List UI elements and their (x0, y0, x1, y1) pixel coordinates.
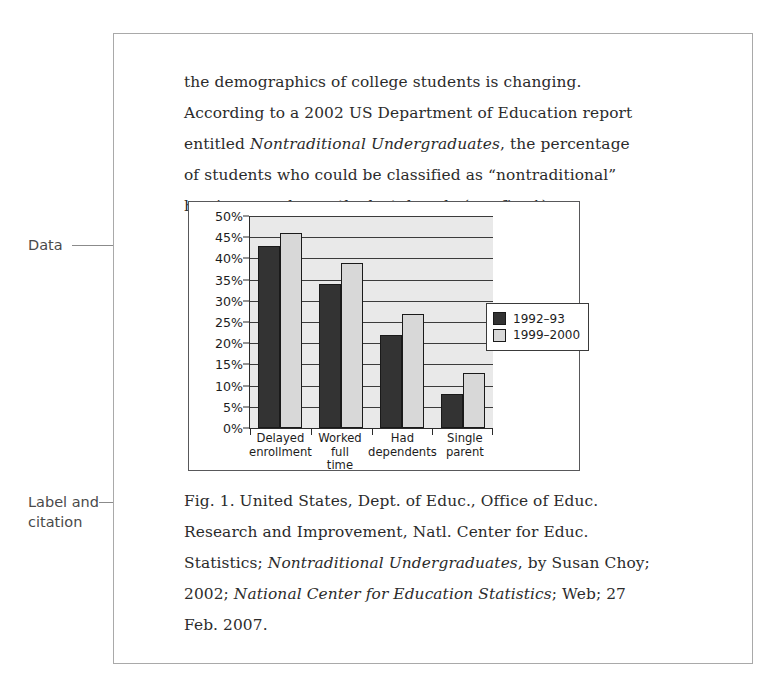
y-tick-label: 20% (197, 336, 243, 351)
bar (441, 394, 463, 428)
y-tick-label: 35% (197, 272, 243, 287)
bar-group (311, 216, 372, 428)
y-tick-label: 25% (197, 315, 243, 330)
bar (341, 263, 363, 428)
body-paragraph: the demographics of college students is … (184, 67, 639, 222)
bar (319, 284, 341, 428)
y-tick-label: 15% (197, 357, 243, 372)
y-tick-mark (243, 216, 249, 217)
y-tick-mark (243, 428, 249, 429)
y-tick-mark (243, 406, 249, 407)
x-axis-line (249, 428, 493, 429)
y-tick-mark (243, 343, 249, 344)
y-tick-mark (243, 279, 249, 280)
bar (280, 233, 302, 428)
y-tick-label: 10% (197, 378, 243, 393)
chart-bar-groups (250, 216, 493, 428)
y-tick-label: 50% (197, 209, 243, 224)
y-tick-mark (243, 322, 249, 323)
chart-area: 50%45%40%35%30%25%20%15%10%5%0% Delayed … (189, 202, 579, 470)
legend-item: 1999–2000 (493, 328, 580, 342)
y-axis-tick-labels: 50%45%40%35%30%25%20%15%10%5%0% (193, 202, 243, 470)
y-tick-label: 0% (197, 421, 243, 436)
bar (380, 335, 402, 428)
legend-item: 1992–93 (493, 312, 580, 326)
bar (402, 314, 424, 428)
y-tick-mark (243, 237, 249, 238)
legend-swatch-icon (493, 329, 506, 342)
x-tick-label: Had dependents (368, 432, 437, 473)
caption-run-3: National Center for Education Statistics (234, 585, 552, 603)
y-tick-label: 30% (197, 293, 243, 308)
bar-group (372, 216, 433, 428)
bar-group (250, 216, 311, 428)
caption-run-1: Nontraditional Undergraduates (268, 554, 518, 572)
y-tick-mark (243, 385, 249, 386)
y-tick-mark (243, 258, 249, 259)
bar (463, 373, 485, 428)
legend-label: 1999–2000 (513, 328, 580, 342)
y-tick-label: 40% (197, 251, 243, 266)
x-axis-tick-labels: Delayed enrollmentWorked full timeHad de… (249, 432, 493, 473)
bar (258, 246, 280, 428)
y-tick-mark (243, 364, 249, 365)
legend-label: 1992–93 (513, 312, 565, 326)
legend-swatch-icon (493, 312, 506, 325)
y-tick-mark (243, 300, 249, 301)
bar-group (432, 216, 493, 428)
x-tick-label: Delayed enrollment (249, 432, 312, 473)
x-tick-label: Single parent (437, 432, 493, 473)
chart-legend: 1992–931999–2000 (486, 303, 589, 351)
annotation-label-citation: Label and citation (28, 492, 99, 532)
x-tick-label: Worked full time (312, 432, 368, 473)
document-page: the demographics of college students is … (113, 33, 753, 664)
chart-plot-area (249, 216, 493, 428)
annotation-data-label: Data (28, 235, 63, 255)
figure-bar-chart: 50%45%40%35%30%25%20%15%10%5%0% Delayed … (188, 201, 580, 471)
figure-caption: Fig. 1. United States, Dept. of Educ., O… (184, 486, 654, 641)
y-tick-label: 5% (197, 399, 243, 414)
y-tick-label: 45% (197, 230, 243, 245)
body-text-run-1: Nontraditional Undergraduates (250, 135, 500, 153)
